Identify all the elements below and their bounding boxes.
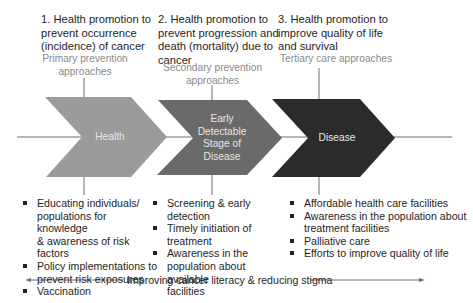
chevron-disease-label: Disease — [310, 132, 364, 145]
bullet-item: Timely initiation of treatment — [150, 222, 290, 247]
footer-label: Improving cancer literacy & reducing sti… — [127, 274, 333, 286]
arrow-right-icon — [419, 278, 425, 282]
bullet-item: Palliative care — [287, 235, 467, 248]
bullet-square-icon — [153, 226, 157, 230]
chevron-health-label: Health — [80, 131, 140, 144]
bullet-square-icon — [290, 214, 294, 218]
chevron-early-stage-label: Early Detectable Stage of Disease — [190, 113, 254, 163]
bullet-item: Educating individuals/ populations for k… — [20, 197, 160, 260]
bullet-square-icon — [153, 251, 157, 255]
stage-2-title: 2. Health promotion to prevent progressi… — [158, 13, 283, 67]
bullet-square-icon — [290, 239, 294, 243]
bullet-square-icon — [23, 201, 27, 205]
stage-1-title: 1. Health promotion to prevent occurrenc… — [41, 13, 161, 54]
bullet-square-icon — [23, 264, 27, 268]
bullet-item: Affordable health care facilities — [287, 197, 467, 210]
stage-1-subtitle: Primary prevention approaches — [35, 53, 135, 78]
stage-3-title: 3. Health promotion to improve quality o… — [278, 13, 408, 54]
bullet-square-icon — [290, 201, 294, 205]
bullet-square-icon — [153, 201, 157, 205]
stage-2-subtitle: Secondary prevention approaches — [160, 62, 265, 87]
bullet-square-icon — [23, 289, 27, 293]
bullet-square-icon — [290, 251, 294, 255]
bullet-item: Screening & early detection — [150, 197, 290, 222]
bullet-item: Awareness in the population about availa… — [150, 247, 290, 297]
stage-3-bullets: Affordable health care facilities Awaren… — [287, 197, 467, 260]
bullet-item: Vaccination — [20, 285, 160, 298]
stage-3-subtitle: Tertiary care approaches — [280, 53, 385, 66]
bullet-item: Awareness in the population about treatm… — [287, 210, 467, 235]
bullet-item: Efforts to improve quality of life — [287, 247, 467, 260]
